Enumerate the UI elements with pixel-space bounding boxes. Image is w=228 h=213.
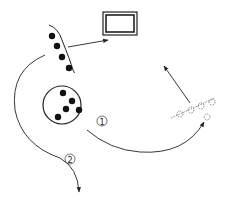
dot xyxy=(76,107,82,113)
path-2-marker: 2 xyxy=(65,154,75,165)
dot xyxy=(49,33,55,39)
cluster-circle xyxy=(43,86,82,124)
path-2-label: 2 xyxy=(67,156,72,165)
path-1-marker: 1 xyxy=(97,116,107,127)
arrow-to-box xyxy=(68,40,108,47)
arrow-up-left xyxy=(164,66,190,103)
diagram-canvas: 1 2 xyxy=(0,0,228,213)
dot xyxy=(63,106,69,112)
dashed-group xyxy=(171,98,215,120)
dot xyxy=(69,98,75,104)
dot xyxy=(60,90,66,96)
path-1-arrow xyxy=(87,122,204,152)
dot xyxy=(55,114,61,120)
display-box-icon xyxy=(103,12,137,35)
dot xyxy=(59,54,65,60)
path-1-label: 1 xyxy=(99,118,104,127)
dot xyxy=(66,65,72,71)
bracket-group xyxy=(49,25,75,73)
dot xyxy=(54,43,60,49)
path-2-arrow xyxy=(14,55,79,192)
